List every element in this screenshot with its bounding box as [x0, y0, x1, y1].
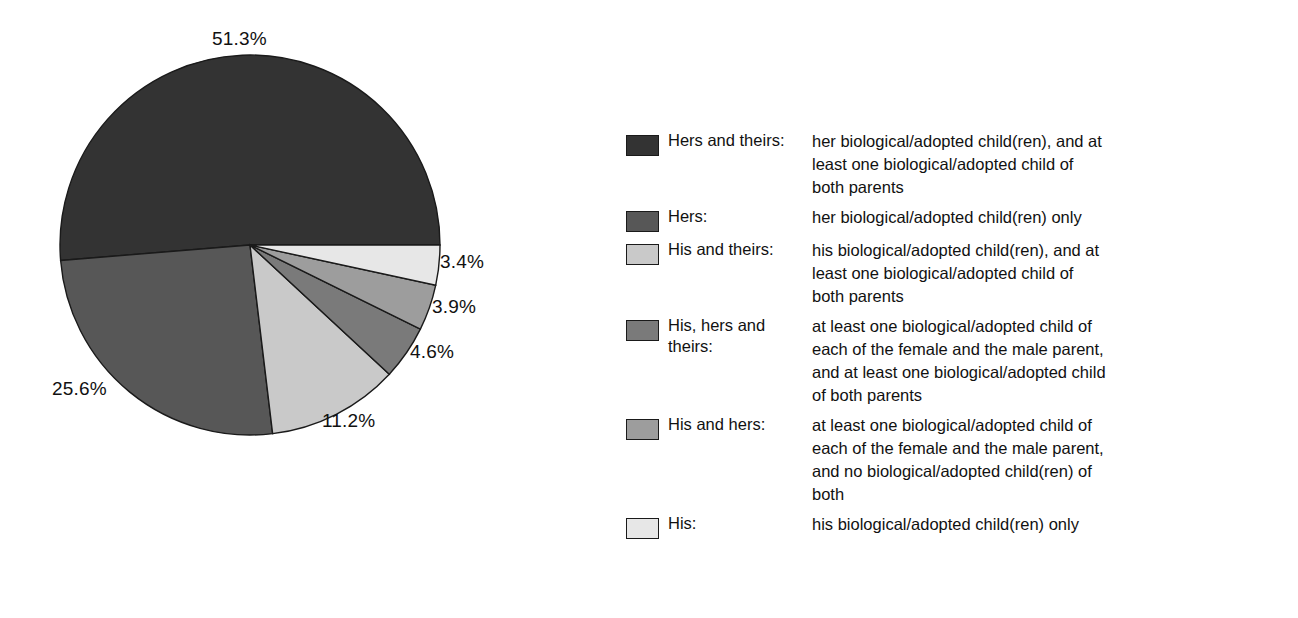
- legend-term-label: His, hers and theirs:: [668, 315, 812, 357]
- legend-definition-line: both parents: [812, 176, 1186, 199]
- legend-definition-text: his biological/adopted child(ren) only: [812, 513, 1186, 536]
- pie-slice[interactable]: [61, 245, 273, 435]
- legend-definition-line: and no biological/adopted child(ren) of: [812, 460, 1186, 483]
- legend-item[interactable]: Hers and theirs:her biological/adopted c…: [626, 130, 1186, 199]
- legend-item[interactable]: His and hers:at least one biological/ado…: [626, 414, 1186, 506]
- legend-color-swatch: [626, 518, 659, 539]
- legend-term-label: Hers and theirs:: [668, 130, 812, 151]
- legend-definition-text: her biological/adopted child(ren), and a…: [812, 130, 1186, 199]
- legend: Hers and theirs:her biological/adopted c…: [626, 130, 1186, 546]
- legend-definition-text: at least one biological/adopted child of…: [812, 315, 1186, 407]
- pie-slice[interactable]: [60, 55, 440, 260]
- pie-chart-svg: [0, 0, 600, 618]
- legend-definition-line: least one biological/adopted child of: [812, 262, 1186, 285]
- legend-term-label: Hers:: [668, 206, 812, 227]
- legend-definition-line: least one biological/adopted child of: [812, 153, 1186, 176]
- pie-slice-percentage-label: 3.9%: [432, 296, 476, 318]
- pie-slice-percentage-label: 51.3%: [212, 28, 267, 50]
- legend-definition-line: both: [812, 483, 1186, 506]
- legend-swatch-cell: [626, 130, 668, 156]
- legend-definition-line: each of the female and the male parent,: [812, 437, 1186, 460]
- legend-item[interactable]: His and theirs:his biological/adopted ch…: [626, 239, 1186, 308]
- legend-color-swatch: [626, 211, 659, 232]
- legend-definition-line: at least one biological/adopted child of: [812, 315, 1186, 338]
- legend-definition-text: his biological/adopted child(ren), and a…: [812, 239, 1186, 308]
- legend-definition-line: both parents: [812, 285, 1186, 308]
- pie-slice-percentage-label: 3.4%: [440, 251, 484, 273]
- legend-definition-line: at least one biological/adopted child of: [812, 414, 1186, 437]
- legend-color-swatch: [626, 135, 659, 156]
- legend-term-label: His and hers:: [668, 414, 812, 435]
- pie-slice-percentage-label: 25.6%: [52, 378, 107, 400]
- legend-term-label: His:: [668, 513, 812, 534]
- legend-color-swatch: [626, 244, 659, 265]
- legend-definition-line: his biological/adopted child(ren) only: [812, 513, 1186, 536]
- legend-definition-line: and at least one biological/adopted chil…: [812, 361, 1186, 384]
- legend-definition-text: her biological/adopted child(ren) only: [812, 206, 1186, 229]
- pie-slice-percentage-label: 11.2%: [322, 410, 375, 432]
- legend-item[interactable]: His:his biological/adopted child(ren) on…: [626, 513, 1186, 539]
- legend-definition-line: of both parents: [812, 384, 1186, 407]
- legend-definition-line: each of the female and the male parent,: [812, 338, 1186, 361]
- legend-definition-line: his biological/adopted child(ren), and a…: [812, 239, 1186, 262]
- legend-swatch-cell: [626, 315, 668, 341]
- legend-definition-line: her biological/adopted child(ren) only: [812, 206, 1186, 229]
- pie-chart-plot-area: 51.3%3.4%3.9%4.6%11.2%25.6%: [0, 0, 600, 618]
- legend-definition-text: at least one biological/adopted child of…: [812, 414, 1186, 506]
- legend-color-swatch: [626, 419, 659, 440]
- legend-item[interactable]: His, hers and theirs:at least one biolog…: [626, 315, 1186, 407]
- legend-item[interactable]: Hers:her biological/adopted child(ren) o…: [626, 206, 1186, 232]
- legend-swatch-cell: [626, 239, 668, 265]
- pie-chart-figure: 51.3%3.4%3.9%4.6%11.2%25.6% Hers and the…: [0, 0, 1298, 618]
- legend-color-swatch: [626, 320, 659, 341]
- legend-swatch-cell: [626, 206, 668, 232]
- pie-slice-percentage-label: 4.6%: [410, 341, 454, 363]
- legend-swatch-cell: [626, 513, 668, 539]
- legend-term-label: His and theirs:: [668, 239, 812, 260]
- legend-swatch-cell: [626, 414, 668, 440]
- legend-definition-line: her biological/adopted child(ren), and a…: [812, 130, 1186, 153]
